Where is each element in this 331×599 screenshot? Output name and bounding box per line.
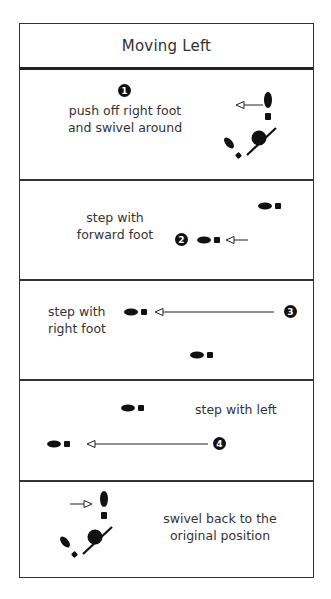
step-number-badge: 2 [175,233,188,246]
step-4-panel: step with left 4 [20,381,313,480]
footprint-icon [98,490,110,522]
arrow-left-icon [235,100,265,110]
footprint-icon [47,439,73,449]
step-3-panel: step with right foot 3 [20,281,313,379]
arrow-left-icon [225,235,249,245]
step-1-line-1: push off right foot [60,102,190,119]
step-1-panel: 1 push off right foot and swivel around [20,70,313,179]
step-5-panel: swivel back to the original position [20,482,313,577]
diagram-frame: Moving Left 1 push off right foot and sw… [19,23,314,578]
arrow-left-icon [86,439,210,449]
pivot-ball-icon [78,521,118,561]
arrow-left-icon [154,307,276,317]
footprint-icon [190,350,216,360]
step-4-text: step with left [195,401,305,418]
step-number-badge: 1 [118,84,131,97]
step-2-panel: step with forward foot 2 [20,181,313,279]
step-number-badge: 3 [284,305,297,318]
step-3-line-2: right foot [48,320,138,337]
pivot-ball-icon [242,122,282,162]
footprint-icon [121,403,147,413]
footprint-icon [258,201,284,211]
footprint-icon [59,535,81,561]
step-2-text: step with forward foot [60,209,170,243]
arrow-right-icon [69,499,93,509]
step-5-line-2: original position [150,527,290,544]
step-1-line-2: and swivel around [60,119,190,136]
step-2-line-2: forward foot [60,226,170,243]
step-1-text: push off right foot and swivel around [60,102,190,136]
diagram-title: Moving Left [20,24,313,68]
footprint-icon [262,91,274,123]
footprint-icon [223,136,245,162]
step-5-line-1: swivel back to the [150,510,290,527]
step-5-text: swivel back to the original position [150,510,290,544]
step-number-badge: 4 [213,437,226,450]
footprint-icon [124,307,150,317]
footprint-icon [197,235,223,245]
step-2-line-1: step with [60,209,170,226]
